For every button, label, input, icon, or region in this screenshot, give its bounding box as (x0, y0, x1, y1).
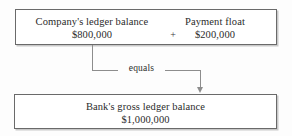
payment-float-label: Payment float (160, 15, 270, 28)
bank-gross-ledger-balance-label: Bank's gross ledger balance (15, 100, 276, 113)
company-ledger-balance-amount: $800,000 (22, 28, 162, 41)
payment-float-cell: Payment float $200,000 (160, 15, 270, 42)
top-box: Company's ledger balance $800,000 + Paym… (15, 9, 277, 45)
connector-arrow-stem (200, 70, 201, 88)
bank-gross-ledger-balance-cell: Bank's gross ledger balance $1,000,000 (15, 100, 276, 127)
connector-horizontal-right (163, 70, 200, 71)
connector-drop-line (92, 45, 93, 71)
ledger-balance-diagram: Company's ledger balance $800,000 + Paym… (0, 0, 292, 136)
payment-float-amount: $200,000 (160, 28, 270, 41)
connector-horizontal-left (92, 70, 120, 71)
company-ledger-balance-cell: Company's ledger balance $800,000 (22, 15, 162, 42)
bottom-box: Bank's gross ledger balance $1,000,000 (14, 94, 277, 129)
equals-label: equals (118, 63, 165, 73)
company-ledger-balance-label: Company's ledger balance (22, 15, 162, 28)
bank-gross-ledger-balance-amount: $1,000,000 (15, 113, 276, 126)
down-arrow-icon (197, 87, 203, 93)
